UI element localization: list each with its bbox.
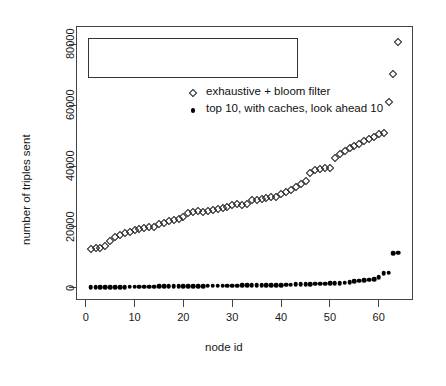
x-tick-label: 20: [177, 311, 189, 323]
x-tick-label: 10: [128, 311, 140, 323]
y-tick-label: 40000: [64, 150, 76, 181]
data-point-filled-circle: [103, 285, 108, 290]
data-point-filled-circle: [88, 285, 93, 290]
filled-circle-marker-icon: [185, 99, 201, 117]
y-tick-label: 20000: [64, 211, 76, 242]
data-point-filled-circle: [357, 278, 362, 283]
y-axis-title: number of triples sent: [20, 134, 32, 245]
data-point-filled-circle: [342, 280, 347, 285]
x-tick-mark: [232, 300, 233, 307]
data-point-filled-circle: [396, 251, 401, 256]
data-point-filled-circle: [240, 283, 245, 288]
legend-label: top 10, with caches, look ahead 10: [206, 102, 383, 114]
x-tick-label: 60: [373, 311, 385, 323]
open-diamond-marker-icon: [185, 82, 201, 100]
data-point-filled-circle: [254, 283, 259, 288]
x-tick-label: 30: [226, 311, 238, 323]
x-tick-mark: [183, 300, 184, 307]
data-point-filled-circle: [386, 270, 391, 275]
x-tick-mark: [281, 300, 282, 307]
data-point-filled-circle: [162, 284, 167, 289]
data-point-filled-circle: [132, 284, 137, 289]
scatter-plot-figure: 020000400006000080000 0102030405060 numb…: [0, 0, 446, 386]
data-point-filled-circle: [196, 284, 201, 289]
data-point-filled-circle: [113, 285, 118, 290]
legend-item-top10-caches: top 10, with caches, look ahead 10: [185, 100, 383, 116]
y-tick-label: 0: [64, 285, 76, 291]
x-tick-label: 50: [324, 311, 336, 323]
x-tick-mark: [85, 300, 86, 307]
data-point-filled-circle: [284, 282, 289, 287]
data-point-filled-circle: [367, 277, 372, 282]
data-point-filled-circle: [147, 284, 152, 289]
data-point-filled-circle: [308, 282, 313, 287]
data-point-filled-circle: [250, 283, 255, 288]
x-tick-label: 40: [275, 311, 287, 323]
data-point-filled-circle: [157, 284, 162, 289]
data-point-filled-circle: [98, 285, 103, 290]
data-point-filled-circle: [264, 283, 269, 288]
data-point-filled-circle: [381, 271, 386, 276]
x-tick-label: 0: [83, 311, 89, 323]
x-tick-mark: [134, 300, 135, 307]
x-tick-mark: [378, 300, 379, 307]
data-point-filled-circle: [225, 283, 230, 288]
legend-item-exhaustive-bloom-filter: exhaustive + bloom filter: [185, 83, 330, 99]
data-point-filled-circle: [377, 275, 382, 280]
y-tick-label: 60000: [64, 90, 76, 121]
data-point-filled-circle: [323, 281, 328, 286]
data-point-filled-circle: [274, 283, 279, 288]
data-point-filled-circle: [230, 283, 235, 288]
data-point-filled-circle: [347, 280, 352, 285]
data-point-filled-circle: [206, 284, 211, 289]
y-tick-label: 80000: [64, 29, 76, 60]
data-point-filled-circle: [298, 282, 303, 287]
data-point-filled-circle: [333, 281, 338, 286]
data-point-filled-circle: [391, 251, 396, 256]
data-point-filled-circle: [215, 283, 220, 288]
data-point-filled-circle: [171, 284, 176, 289]
legend: exhaustive + bloom filter top 10, with c…: [88, 38, 298, 78]
data-point-filled-circle: [137, 284, 142, 289]
data-point-filled-circle: [289, 282, 294, 287]
legend-label: exhaustive + bloom filter: [206, 85, 330, 97]
data-point-filled-circle: [318, 281, 323, 286]
x-axis-title: node id: [205, 341, 243, 353]
x-tick-mark: [329, 300, 330, 307]
data-point-filled-circle: [123, 285, 128, 290]
data-point-filled-circle: [191, 284, 196, 289]
data-point-filled-circle: [181, 284, 186, 289]
